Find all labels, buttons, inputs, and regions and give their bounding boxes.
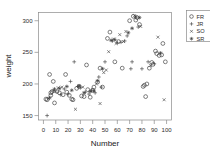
x-tick-label: 20 — [65, 127, 72, 133]
legend-label-FR: FR — [197, 14, 204, 20]
data-point — [58, 86, 62, 90]
data-point — [82, 91, 86, 95]
data-point — [53, 87, 57, 91]
data-point — [159, 51, 163, 55]
legend-label-SR: SR — [197, 36, 205, 42]
data-point — [77, 84, 81, 88]
data-point — [113, 38, 117, 42]
y-tick-label: 200 — [22, 81, 33, 87]
data-point — [126, 31, 130, 35]
legend[interactable]: FRJRSOSR — [187, 11, 211, 42]
y-tick-label: 250 — [22, 49, 33, 55]
data-point — [96, 79, 100, 83]
data-point — [138, 16, 142, 20]
x-tick-label: 90 — [151, 127, 158, 133]
data-point — [134, 15, 138, 19]
y-tick-label: 300 — [22, 18, 33, 24]
legend-label-SO: SO — [197, 28, 206, 34]
x-tick-label: 40 — [89, 127, 96, 133]
x-tick-label: 50 — [102, 127, 109, 133]
x-tick-label: 10 — [52, 127, 59, 133]
data-point — [88, 90, 92, 94]
x-axis-title: Number — [91, 139, 120, 148]
data-point — [70, 88, 74, 92]
legend-label-JR: JR — [197, 21, 204, 27]
y-tick-label: 150 — [22, 113, 33, 119]
data-point — [130, 26, 134, 30]
x-tick-label: 60 — [114, 127, 121, 133]
y-axis-title: weight — [4, 54, 13, 79]
legend-marker-SR — [190, 37, 194, 41]
x-tick-label: 70 — [126, 127, 133, 133]
data-point — [101, 67, 105, 71]
data-point — [48, 96, 52, 100]
x-tick-label: 30 — [77, 127, 84, 133]
data-point — [109, 38, 113, 42]
data-point — [92, 89, 96, 93]
x-tick-label: 100 — [162, 127, 173, 133]
data-point — [65, 85, 69, 89]
x-tick-label: 80 — [139, 127, 146, 133]
scatter-plot-figure: 150200250300 0102030405060708090100 weig… — [0, 0, 210, 152]
